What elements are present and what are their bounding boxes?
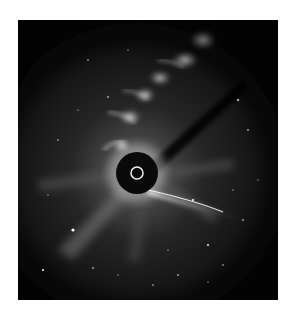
coronagraph-image: Coronagraph view: black occulting disk w… [18, 20, 278, 300]
coronagraph-svg [18, 20, 278, 300]
occulter-disk [116, 152, 158, 194]
